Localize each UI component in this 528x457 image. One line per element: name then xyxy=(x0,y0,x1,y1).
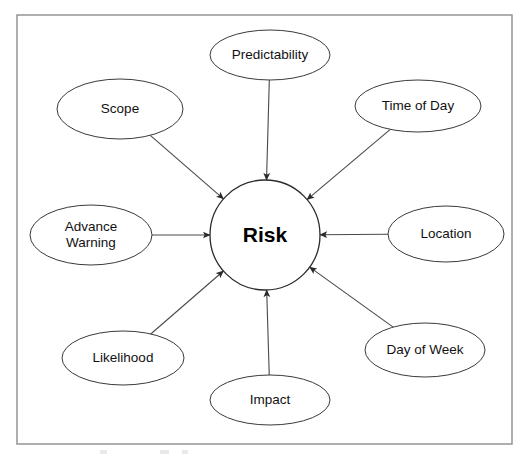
diagram-canvas: PredictabilityScopeTime of DayAdvanceWar… xyxy=(0,0,528,457)
edge-day-of-week-to-center xyxy=(310,267,394,327)
edge-time-of-day-to-center xyxy=(307,129,390,199)
node-label-scope: Scope xyxy=(101,101,139,116)
node-label-predictability: Predictability xyxy=(232,47,309,62)
edge-impact-to-center xyxy=(267,290,270,375)
node-advance-warning[interactable]: AdvanceWarning xyxy=(30,205,152,265)
node-likelihood[interactable]: Likelihood xyxy=(62,331,184,385)
edge-likelihood-to-center xyxy=(151,271,224,334)
node-day-of-week[interactable]: Day of Week xyxy=(365,323,485,377)
center-node-risk[interactable]: Risk xyxy=(210,180,320,290)
node-label-day-of-week: Day of Week xyxy=(386,342,463,357)
node-label-impact: Impact xyxy=(250,392,291,407)
risk-factors-diagram: PredictabilityScopeTime of DayAdvanceWar… xyxy=(0,0,528,457)
edge-predictability-to-center xyxy=(267,80,270,180)
node-predictability[interactable]: Predictability xyxy=(210,30,330,80)
node-label-likelihood: Likelihood xyxy=(93,350,154,365)
node-location[interactable]: Location xyxy=(388,206,504,262)
node-label-time-of-day: Time of Day xyxy=(382,98,455,113)
node-label-location: Location xyxy=(420,226,471,241)
node-time-of-day[interactable]: Time of Day xyxy=(355,80,481,132)
edge-scope-to-center xyxy=(150,135,223,199)
center-node-label: Risk xyxy=(243,223,288,246)
cropped-caption-artifact xyxy=(100,450,188,454)
node-label-advance-warning: Advance xyxy=(65,219,118,234)
node-impact[interactable]: Impact xyxy=(210,375,330,425)
node-scope[interactable]: Scope xyxy=(57,79,183,139)
node-label-advance-warning: Warning xyxy=(66,235,116,250)
